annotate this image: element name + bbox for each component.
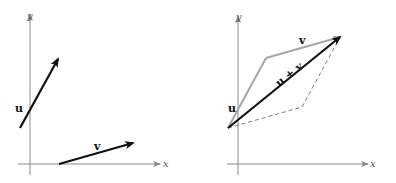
vector-u-label: u [15,102,23,115]
vector-v-label: v [298,34,306,47]
x-axis-label: x [370,158,376,169]
vector-u-label: u [228,102,236,115]
vector-u [20,59,58,128]
right-panel: y x u v u + v [227,11,376,175]
y-axis-label: y [26,10,33,21]
vector-u-translated [228,58,266,128]
y-axis-label: y [235,11,242,22]
vector-u-plus-v-label: u + v [273,59,306,89]
x-axis-label: x [163,158,169,169]
vector-addition-diagram: y x u v y x u v u + v [0,0,396,183]
left-panel: y x u v [15,10,169,175]
vector-v-label: v [93,140,101,153]
